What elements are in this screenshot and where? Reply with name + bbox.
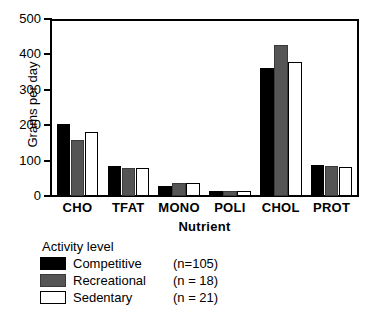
legend-swatch-recreational xyxy=(40,274,66,287)
legend-swatch-sedentary xyxy=(40,291,66,304)
bar-poli-recreational xyxy=(223,191,237,196)
bar-group xyxy=(311,21,353,196)
legend-item-competitive: Competitive(n=105) xyxy=(40,255,300,272)
bar-prot-competitive xyxy=(311,165,325,196)
legend-rows: Competitive(n=105)Recreational(n = 18)Se… xyxy=(40,255,300,306)
legend-count-recreational: (n = 18) xyxy=(173,274,218,288)
bar-chol-sedentary xyxy=(288,62,302,196)
bar-chol-recreational xyxy=(274,45,288,196)
bar-poli-competitive xyxy=(209,191,223,196)
x-axis-tick-label-prot: PROT xyxy=(292,200,372,215)
bars-layer xyxy=(52,21,357,196)
legend-swatch-competitive xyxy=(40,257,66,270)
bar-group xyxy=(57,21,99,196)
legend-label-recreational: Recreational xyxy=(73,274,173,288)
y-axis-tick-label: 400 xyxy=(1,47,41,60)
legend-item-sedentary: Sedentary(n = 21) xyxy=(40,289,300,306)
bar-prot-sedentary xyxy=(339,167,353,196)
legend-label-competitive: Competitive xyxy=(73,257,173,271)
bar-group xyxy=(260,21,302,196)
bar-tfat-competitive xyxy=(108,166,122,196)
legend-label-sedentary: Sedentary xyxy=(73,291,173,305)
bar-tfat-recreational xyxy=(122,168,136,196)
bar-cho-competitive xyxy=(57,124,71,196)
bar-cho-sedentary xyxy=(85,132,99,196)
bar-group xyxy=(209,21,251,196)
y-axis-tick-label: 200 xyxy=(1,118,41,131)
y-axis-tick-label: 300 xyxy=(1,83,41,96)
bar-mono-sedentary xyxy=(186,183,200,196)
bar-mono-recreational xyxy=(172,183,186,196)
y-axis-tick-label: 100 xyxy=(1,154,41,167)
bar-cho-recreational xyxy=(71,140,85,196)
bar-chart-figure: Grams per day 0100200300400500 CHOTFATMO… xyxy=(0,0,374,315)
legend-count-competitive: (n=105) xyxy=(173,257,218,271)
bar-chol-competitive xyxy=(260,68,274,196)
bar-prot-recreational xyxy=(325,166,339,196)
y-axis-tick-label: 0 xyxy=(1,189,41,202)
x-axis-title: Nutrient xyxy=(50,219,359,234)
legend-item-recreational: Recreational(n = 18) xyxy=(40,272,300,289)
bar-mono-competitive xyxy=(158,186,172,196)
legend-count-sedentary: (n = 21) xyxy=(173,291,218,305)
bar-tfat-sedentary xyxy=(136,168,150,196)
legend-title: Activity level xyxy=(40,239,300,254)
bar-poli-sedentary xyxy=(237,191,251,196)
y-axis-tick-label: 500 xyxy=(1,12,41,25)
bar-group xyxy=(158,21,200,196)
bar-group xyxy=(108,21,150,196)
chart-legend: Activity level Competitive(n=105)Recreat… xyxy=(40,239,300,306)
